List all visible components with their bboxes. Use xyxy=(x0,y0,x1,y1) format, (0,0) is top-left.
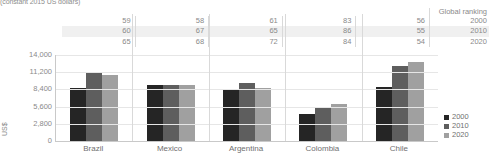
bar-argentina-2020 xyxy=(255,88,271,141)
y-tick-label: 5,600 xyxy=(33,103,52,111)
global-ranking-table: Global ranking 59 58 61 83 56 2000 60 67… xyxy=(62,7,489,48)
legend-swatch-icon xyxy=(444,115,449,120)
gridline xyxy=(56,72,438,73)
legend-item-2000[interactable]: 2000 xyxy=(444,113,469,121)
bar-mexico-2020 xyxy=(179,85,195,141)
bar-chile-2010 xyxy=(392,66,408,141)
bar-colombia-2000 xyxy=(299,114,315,141)
gridline xyxy=(56,89,438,90)
chart-legend: 200020102020 xyxy=(444,113,469,139)
ranking-cell-mexico-2020: 68 xyxy=(135,37,209,47)
ranking-cell-argentina-2020: 72 xyxy=(208,37,282,47)
bar-chile-2020 xyxy=(408,62,424,141)
gridline xyxy=(56,107,438,108)
ranking-row-2000: 59 58 61 83 56 2000 xyxy=(62,16,489,26)
ranking-year-2000: 2000 xyxy=(429,16,489,26)
y-tick-label: 14,000 xyxy=(29,51,52,59)
x-axis-labels: BrazilMexicoArgentinaColombiaChile xyxy=(55,144,437,153)
ranking-year-2020: 2020 xyxy=(429,37,489,47)
global-ranking-header-row: Global ranking xyxy=(62,7,489,16)
global-ranking-header-label: Global ranking xyxy=(429,8,489,16)
group-separator xyxy=(209,14,210,141)
gridline xyxy=(56,55,438,56)
bar-mexico-2010 xyxy=(163,85,179,141)
bar-group xyxy=(209,55,285,141)
bar-group xyxy=(285,55,361,141)
x-axis-label-mexico: Mexico xyxy=(131,144,207,153)
legend-swatch-icon xyxy=(444,133,449,138)
bar-group xyxy=(362,55,438,141)
gridline xyxy=(56,124,438,125)
ranking-year-2010: 2010 xyxy=(429,26,489,36)
ranking-cell-chile-2000: 56 xyxy=(355,16,429,26)
ranking-cell-mexico-2010: 67 xyxy=(135,26,209,36)
legend-label: 2020 xyxy=(452,131,469,139)
bar-brazil-2020 xyxy=(102,75,118,141)
bar-mexico-2000 xyxy=(147,85,163,141)
ranking-cell-colombia-2020: 84 xyxy=(282,37,356,47)
ranking-cell-brazil-2020: 65 xyxy=(62,37,135,47)
y-axis-ticks: 02,8005,6008,40011,20014,000 xyxy=(10,48,52,141)
ranking-cell-chile-2020: 54 xyxy=(355,37,429,47)
ranking-cell-brazil-2000: 59 xyxy=(62,16,135,26)
bar-argentina-2010 xyxy=(239,83,255,141)
group-separator xyxy=(362,14,363,141)
y-tick-label: 11,200 xyxy=(30,68,52,76)
bar-colombia-2020 xyxy=(331,104,347,141)
y-tick-label: 2,800 xyxy=(33,120,52,128)
bar-group xyxy=(56,55,132,141)
x-axis-label-colombia: Colombia xyxy=(284,144,360,153)
group-separator xyxy=(285,14,286,141)
bar-groups xyxy=(56,55,438,141)
y-tick-label: 0 xyxy=(48,137,52,145)
ranking-cell-chile-2010: 55 xyxy=(355,26,429,36)
ranking-cell-brazil-2010: 60 xyxy=(62,26,135,36)
y-tick-label: 8,400 xyxy=(33,85,52,93)
ranking-cell-mexico-2000: 58 xyxy=(135,16,209,26)
legend-label: 2010 xyxy=(452,122,469,130)
bar-brazil-2000 xyxy=(70,88,86,141)
legend-label: 2000 xyxy=(452,113,469,121)
ranking-cell-argentina-2010: 65 xyxy=(208,26,282,36)
x-axis-label-argentina: Argentina xyxy=(208,144,284,153)
x-axis-label-brazil: Brazil xyxy=(55,144,131,153)
legend-item-2010[interactable]: 2010 xyxy=(444,122,469,130)
legend-item-2020[interactable]: 2020 xyxy=(444,131,469,139)
x-axis-label-chile: Chile xyxy=(361,144,437,153)
ranking-cell-colombia-2010: 86 xyxy=(282,26,356,36)
legend-swatch-icon xyxy=(444,124,449,129)
bar-plot xyxy=(55,55,438,142)
ranking-cell-colombia-2000: 83 xyxy=(282,16,356,26)
ranking-row-2020: 65 68 72 84 54 2020 xyxy=(62,37,489,47)
bar-argentina-2000 xyxy=(223,90,239,141)
group-separator xyxy=(132,14,133,141)
ranking-cell-argentina-2000: 61 xyxy=(208,16,282,26)
chart-subtitle: (constant 2015 US dollars) xyxy=(0,0,80,5)
bar-group xyxy=(132,55,208,141)
chart-plot-area: US$ 02,8005,6008,40011,20014,000 BrazilM… xyxy=(0,48,489,160)
bar-chile-2000 xyxy=(376,87,392,141)
ranking-row-2010: 60 67 65 86 55 2010 xyxy=(62,26,489,36)
y-axis-label: US$ xyxy=(1,122,8,136)
